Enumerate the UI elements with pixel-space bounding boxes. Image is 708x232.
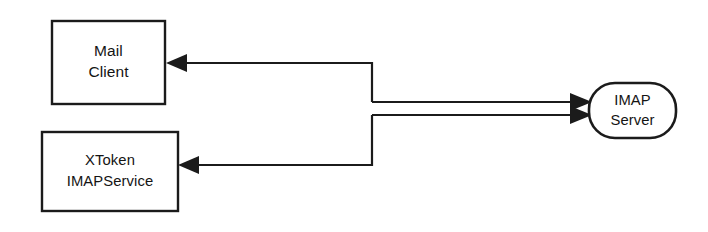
diagram-canvas: Mail Client XToken IMAPService IMAP Serv…: [0, 0, 708, 232]
node-imap-server-label-line1: IMAP: [614, 92, 651, 108]
connector-server-to-xtoken-path: [192, 115, 372, 165]
node-imap-server-label-line2: Server: [610, 112, 654, 128]
node-mail-client-label-line1: Mail: [94, 42, 123, 59]
node-mail-client-label-line2: Client: [88, 63, 129, 80]
node-mail-client[interactable]: Mail Client: [52, 21, 165, 104]
connector-server-to-mail-client-path: [180, 63, 372, 102]
connector-server-to-xtoken: [178, 115, 372, 174]
node-xtoken-imapservice[interactable]: XToken IMAPService: [42, 132, 178, 211]
arrowhead-into-mail-client: [166, 54, 187, 72]
node-xtoken-imapservice-box[interactable]: [42, 132, 178, 211]
arrowhead-into-xtoken: [178, 156, 199, 174]
connector-mail-client-to-server: [372, 93, 592, 111]
node-imap-server[interactable]: IMAP Server: [589, 83, 676, 138]
connector-xtoken-to-server: [372, 106, 592, 124]
node-xtoken-imapservice-label-line1: XToken: [85, 152, 135, 168]
diagram-svg-surface: Mail Client XToken IMAPService IMAP Serv…: [0, 0, 708, 232]
connector-server-to-mail-client: [166, 54, 372, 102]
node-xtoken-imapservice-label-line2: IMAPService: [67, 173, 154, 189]
